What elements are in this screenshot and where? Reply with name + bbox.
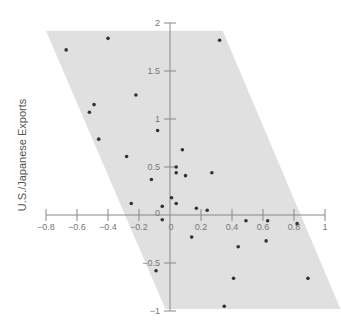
data-point — [174, 202, 178, 206]
data-point — [195, 206, 199, 210]
y-tick-label: −0.5 — [142, 258, 160, 268]
data-point — [232, 277, 236, 281]
data-point — [218, 38, 222, 42]
data-point — [181, 148, 185, 152]
y-tick-label: 0 — [155, 208, 160, 218]
data-point — [174, 171, 178, 175]
data-point — [134, 93, 138, 97]
data-point — [266, 219, 270, 223]
x-tick-label: 1 — [322, 222, 327, 232]
x-tick-label: −0.4 — [99, 222, 117, 232]
x-tick-label: 0 — [168, 222, 173, 232]
y-tick-label: −1 — [150, 306, 160, 316]
scatter-chart: −0.8−0.6−0.4−0.200.20.40.60.81 −1−0.500.… — [0, 0, 341, 327]
shaded-region — [46, 31, 341, 309]
data-point — [222, 304, 226, 308]
y-tick-label: 1.5 — [147, 66, 160, 76]
data-point — [236, 245, 240, 249]
y-tick-label: 1 — [155, 114, 160, 124]
x-tick-label: −0.2 — [130, 222, 148, 232]
data-point — [156, 129, 160, 133]
data-point — [210, 171, 214, 175]
y-axis-label: U.S./Japanese Exports — [16, 99, 28, 212]
data-point — [264, 239, 268, 243]
data-point — [174, 165, 178, 169]
data-point — [160, 218, 164, 222]
data-point — [97, 137, 101, 141]
y-tick-label: 0.5 — [147, 162, 160, 172]
x-tick-label: −0.8 — [37, 222, 55, 232]
data-point — [205, 208, 209, 212]
data-point — [92, 103, 96, 107]
x-tick-label: 0.6 — [257, 222, 270, 232]
data-point — [184, 174, 188, 178]
data-point — [150, 178, 154, 182]
data-point — [106, 37, 110, 41]
data-point — [190, 235, 194, 239]
data-point — [154, 269, 158, 273]
data-point — [170, 196, 174, 200]
data-point — [125, 155, 129, 159]
x-tick-label: −0.6 — [68, 222, 86, 232]
data-point — [244, 219, 248, 223]
x-tick-label: 0.2 — [195, 222, 208, 232]
data-point — [88, 110, 92, 114]
x-tick-label: 0.4 — [226, 222, 239, 232]
data-point — [295, 222, 299, 226]
data-point — [306, 277, 310, 281]
data-point — [129, 202, 133, 206]
data-point — [64, 48, 68, 52]
data-point — [160, 205, 164, 209]
y-tick-label: 2 — [155, 18, 160, 28]
